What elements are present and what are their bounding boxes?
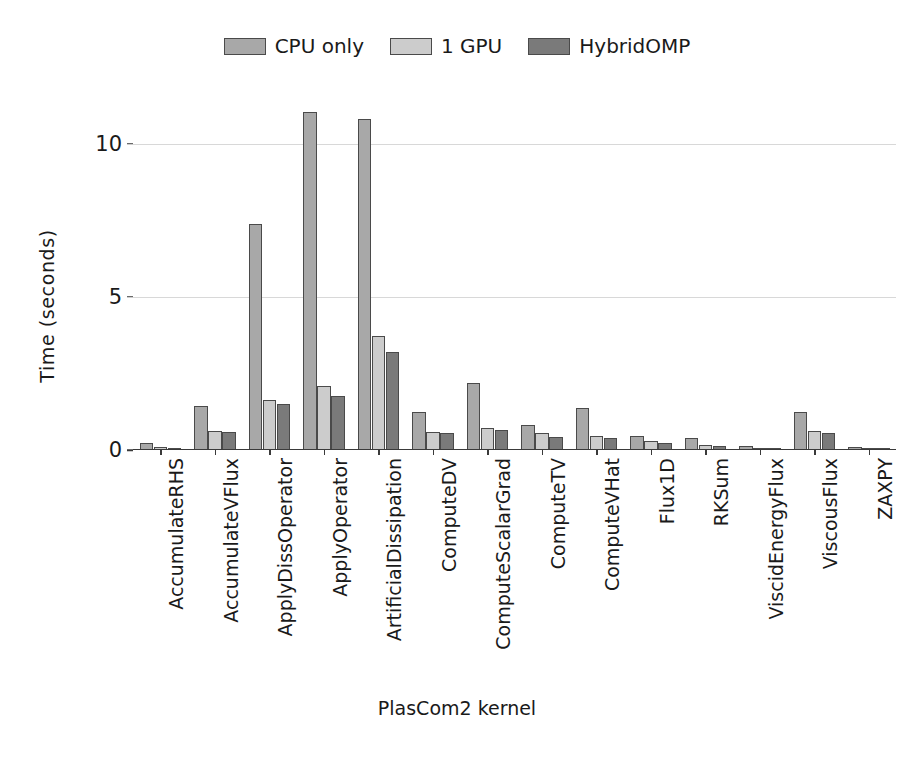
x-tick-mark (215, 450, 217, 455)
bar-series-container (133, 95, 896, 450)
legend-swatch-icon (224, 38, 266, 55)
x-tick-mark (760, 450, 762, 455)
bar-chart-figure: CPU only1 GPUHybridOMP Time (seconds) 05… (0, 0, 914, 765)
x-tick-mark (651, 450, 653, 455)
bar (331, 396, 345, 450)
bar-group (467, 95, 509, 450)
x-tick-mark (269, 450, 271, 455)
bar (794, 412, 808, 450)
x-tick-mark (324, 450, 326, 455)
y-axis-title: Time (seconds) (36, 196, 58, 416)
bar-group (412, 95, 454, 450)
x-tick-label: ArtificialDissipation (385, 458, 404, 688)
bar (194, 406, 208, 450)
bar-group (576, 95, 618, 450)
x-tick-label: RKSum (712, 458, 731, 688)
bar (495, 430, 509, 450)
x-tick-mark (705, 450, 707, 455)
bar (222, 432, 236, 450)
bar (263, 400, 277, 450)
legend-label: HybridOMP (579, 36, 690, 56)
bar (808, 431, 822, 450)
bar (208, 431, 222, 450)
legend-swatch-icon (528, 38, 570, 55)
bar (386, 352, 400, 450)
bar-group (685, 95, 727, 450)
bar (481, 428, 495, 450)
chart-legend: CPU only1 GPUHybridOMP (0, 36, 914, 56)
x-axis-tick-labels: AccumulateRHSAccumulateVFluxApplyDissOpe… (133, 450, 896, 690)
x-tick-label: ComputeVHat (603, 458, 622, 688)
bar (822, 433, 836, 450)
legend-swatch-icon (390, 38, 432, 55)
x-tick-mark (596, 450, 598, 455)
bar-group (521, 95, 563, 450)
legend-label: 1 GPU (441, 36, 502, 56)
bar (249, 224, 263, 450)
legend-entry: CPU only (224, 36, 364, 56)
x-tick-label: ApplyDissOperator (276, 458, 295, 688)
bar (576, 408, 590, 450)
legend-entry: HybridOMP (528, 36, 690, 56)
x-tick-mark (869, 450, 871, 455)
bar-group (140, 95, 182, 450)
bar-group (358, 95, 400, 450)
bar-group (794, 95, 836, 450)
x-tick-label: ComputeDV (440, 458, 459, 688)
bar (440, 433, 454, 450)
bar-group (249, 95, 291, 450)
bar-group (303, 95, 345, 450)
bar (426, 432, 440, 450)
bar (303, 112, 317, 450)
bar (277, 404, 291, 450)
bar (317, 386, 331, 450)
x-tick-mark (433, 450, 435, 455)
x-tick-label: ViscidEnergyFlux (767, 458, 786, 688)
x-tick-label: AccumulateVFlux (222, 458, 241, 688)
x-tick-mark (160, 450, 162, 455)
bar (467, 383, 481, 450)
bar (372, 336, 386, 450)
x-tick-mark (814, 450, 816, 455)
bar-group (194, 95, 236, 450)
y-tick-label: 10 (95, 133, 122, 154)
y-tick-label: 5 (109, 286, 122, 307)
x-tick-label: ZAXPY (876, 458, 895, 688)
x-tick-label: Flux1D (658, 458, 677, 688)
bar-group (848, 95, 890, 450)
plot-area: 0510 (133, 95, 896, 450)
x-tick-label: ComputeScalarGrad (494, 458, 513, 688)
x-tick-mark (487, 450, 489, 455)
y-tick-label: 0 (109, 440, 122, 461)
bar-group (739, 95, 781, 450)
bar (358, 119, 372, 450)
legend-label: CPU only (275, 36, 364, 56)
x-tick-label: ComputeTV (549, 458, 568, 688)
bar (412, 412, 426, 450)
bar-group (630, 95, 672, 450)
x-tick-label: AccumulateRHS (167, 458, 186, 688)
legend-entry: 1 GPU (390, 36, 502, 56)
x-tick-label: ApplyOperator (331, 458, 350, 688)
x-axis-title: PlasCom2 kernel (0, 697, 914, 719)
bar (535, 433, 549, 450)
x-tick-mark (542, 450, 544, 455)
x-tick-label: ViscousFlux (821, 458, 840, 688)
bar (521, 425, 535, 450)
x-tick-mark (378, 450, 380, 455)
